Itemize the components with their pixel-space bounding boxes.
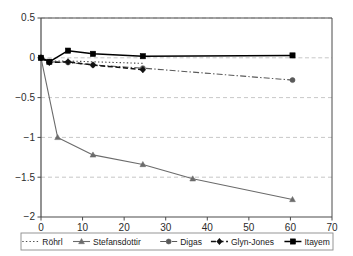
- legend-entry-label: Itayem: [304, 237, 330, 247]
- data-point-marker: [290, 78, 295, 83]
- series-glyn-jones: [38, 55, 145, 73]
- series-digas: [39, 55, 296, 82]
- line-chart: 0.50−0.5−1−1.5−2010203040506070RöhrlStef…: [0, 0, 353, 256]
- x-tick-label-7: 70: [326, 222, 338, 233]
- data-point-marker: [140, 54, 145, 59]
- data-point-marker: [290, 53, 295, 58]
- x-tick-label-2: 20: [119, 222, 131, 233]
- legend-entry-label: Glyn-Jones: [231, 237, 274, 247]
- y-tick-label-4: −1.5: [15, 172, 35, 183]
- legend-sample-marker: [290, 239, 295, 244]
- series-line: [41, 58, 293, 80]
- data-point-marker: [47, 59, 52, 64]
- legend-sample-marker: [166, 239, 171, 244]
- y-tick-label-0: 0.5: [21, 12, 35, 23]
- x-tick-label-1: 10: [77, 222, 89, 233]
- legend-entry-label: Röhrl: [42, 237, 62, 247]
- x-tick-label-0: 0: [38, 222, 44, 233]
- data-point-marker: [65, 48, 70, 53]
- series-line: [41, 51, 293, 62]
- data-point-marker: [38, 55, 43, 60]
- chart-figure: 0.50−0.5−1−1.5−2010203040506070RöhrlStef…: [0, 0, 353, 256]
- data-point-marker: [90, 62, 96, 68]
- x-tick-label-6: 60: [285, 222, 297, 233]
- legend-entry-label: Stefansdottir: [93, 237, 141, 247]
- y-tick-label-2: −0.5: [15, 92, 35, 103]
- x-tick-label-5: 50: [243, 222, 255, 233]
- data-point-marker: [90, 51, 95, 56]
- series-itayem: [38, 48, 295, 64]
- x-tick-label-4: 40: [202, 222, 214, 233]
- y-tick-label-3: −1: [24, 132, 36, 143]
- legend-entry-label: Digas: [180, 237, 202, 247]
- x-tick-label-3: 30: [160, 222, 172, 233]
- y-tick-label-5: −2: [24, 211, 36, 222]
- series-line: [41, 58, 293, 200]
- y-tick-label-1: 0: [29, 52, 35, 63]
